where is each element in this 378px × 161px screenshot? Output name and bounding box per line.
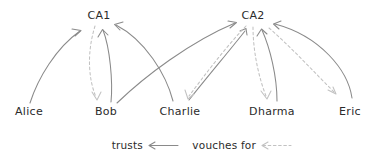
legend: trusts vouches for <box>112 139 291 151</box>
node-label-bob: Bob <box>95 105 117 118</box>
edge-charlie-trusts-ca2 <box>189 29 247 101</box>
edge-eric-trusts-ca2 <box>274 21 353 98</box>
edge-ca1-vouches-bob <box>89 26 101 100</box>
edge-ca2-vouches-dharma <box>253 27 271 99</box>
legend-label-trusts: trusts <box>112 139 143 151</box>
node-label-dharma: Dharma <box>249 105 295 118</box>
edge-ca2-vouches-eric <box>269 28 336 94</box>
edge-bob-trusts-ca2 <box>117 21 237 103</box>
node-label-charlie: Charlie <box>160 105 201 118</box>
edge-alice-trusts-ca1 <box>30 29 81 103</box>
edge-ca2-vouches-charlie <box>185 26 246 99</box>
diagram-canvas: CA1 CA2 Alice Bob Charlie Dharma Eric tr… <box>0 0 378 161</box>
node-label-ca1: CA1 <box>87 9 110 22</box>
edge-bob-trusts-ca1 <box>98 30 112 103</box>
legend-label-vouches-for: vouches for <box>192 139 256 151</box>
legend-entry-trusts: trusts <box>112 139 178 151</box>
edge-dharma-trusts-ca2 <box>257 29 277 101</box>
node-label-alice: Alice <box>15 105 43 118</box>
legend-entry-vouches-for: vouches for <box>192 139 291 151</box>
node-label-eric: Eric <box>339 105 361 118</box>
node-label-ca2: CA2 <box>241 9 264 22</box>
edge-charlie-trusts-ca1 <box>115 22 174 101</box>
trust-graph-diagram: CA1 CA2 Alice Bob Charlie Dharma Eric tr… <box>0 0 378 161</box>
